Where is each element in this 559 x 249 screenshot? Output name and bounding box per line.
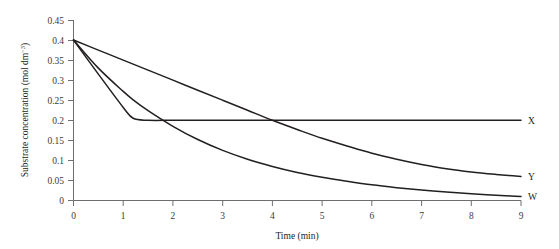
x-tick-label: 2: [171, 211, 176, 221]
series-label-y: Y: [528, 172, 535, 182]
y-axis-title: Substrate concentration (mol dm−3): [19, 43, 32, 177]
substrate-concentration-line-chart: 0.45 0.4 0.35 0.3 0.25 0.2 0.15 0.1 0.05…: [0, 0, 559, 249]
y-axis-title-exponent: −3: [19, 46, 26, 53]
y-axis-ticks: [68, 21, 74, 201]
x-tick-label: 4: [270, 211, 275, 221]
y-tick-label: 0.4: [52, 36, 64, 46]
series-line-y: [74, 40, 522, 176]
x-axis-tick-labels: 0 1 2 3 4 5 6 7 8 9: [71, 211, 524, 221]
series-label-w: W: [528, 192, 537, 202]
y-axis-tick-labels: 0.45 0.4 0.35 0.3 0.25 0.2 0.15 0.1 0.05…: [47, 16, 64, 206]
x-axis-ticks: [74, 201, 522, 207]
x-tick-label: 7: [419, 211, 424, 221]
x-tick-label: 0: [71, 211, 76, 221]
x-tick-label: 9: [519, 211, 524, 221]
series-label-x: X: [528, 116, 535, 126]
series-labels: X Y W: [528, 116, 537, 202]
y-tick-label: 0.2: [52, 116, 64, 126]
x-tick-label: 8: [469, 211, 474, 221]
series-line-w: [74, 40, 522, 196]
data-curves: [74, 40, 522, 196]
x-tick-label: 6: [369, 211, 374, 221]
y-tick-label: 0.15: [47, 136, 64, 146]
y-tick-label: 0.25: [47, 96, 64, 106]
x-axis-title: Time (min): [275, 231, 318, 242]
y-tick-label: 0.3: [52, 76, 64, 86]
y-tick-label: 0.45: [47, 16, 64, 26]
y-tick-label: 0: [59, 196, 64, 206]
y-tick-label: 0.35: [47, 56, 64, 66]
y-axis-title-tail: ): [20, 43, 31, 46]
y-tick-label: 0.1: [52, 156, 64, 166]
y-axis-title-main: Substrate concentration (mol dm: [20, 52, 31, 177]
x-tick-label: 1: [121, 211, 126, 221]
x-tick-label: 3: [220, 211, 225, 221]
series-line-x: [74, 40, 522, 120]
chart-figure: 0.45 0.4 0.35 0.3 0.25 0.2 0.15 0.1 0.05…: [0, 0, 559, 249]
x-tick-label: 5: [320, 211, 325, 221]
y-tick-label: 0.05: [47, 176, 64, 186]
